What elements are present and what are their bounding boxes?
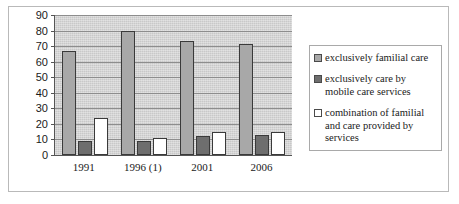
bar	[255, 135, 269, 155]
plot-area	[54, 15, 292, 156]
legend-item: exclusively care by mobile care services	[314, 73, 437, 98]
plot-wrapper: 0102030405060708090 19911996 (1)20012006	[27, 15, 292, 167]
y-axis-tick-label: 50	[36, 72, 48, 83]
chart-figure: 0102030405060708090 19911996 (1)20012006…	[8, 6, 449, 192]
legend-item-label: exclusively familial care	[325, 52, 428, 64]
bar-group	[233, 15, 292, 155]
y-axis-tick-label: 10	[36, 134, 48, 145]
y-axis-tick-label: 40	[36, 87, 48, 98]
y-axis-tick-label: 80	[36, 25, 48, 36]
bar	[153, 138, 167, 155]
legend-item: exclusively familial care	[314, 52, 437, 64]
bar	[62, 51, 76, 155]
y-axis-tick-label: 0	[42, 150, 48, 161]
x-axis-tick-label: 1991	[73, 161, 95, 173]
legend-swatch-exclusively-familial-care	[314, 54, 322, 62]
bar	[121, 31, 135, 155]
bar	[94, 118, 108, 155]
legend-item: combination of familial and care provide…	[314, 107, 437, 144]
bar	[180, 41, 194, 155]
bar	[137, 141, 151, 155]
x-axis: 19911996 (1)20012006	[54, 161, 292, 177]
bar	[212, 132, 226, 155]
y-axis-tick-label: 90	[36, 10, 48, 21]
bar	[196, 136, 210, 155]
bar	[271, 132, 285, 155]
y-axis-tick-label: 30	[36, 103, 48, 114]
x-axis-tick-label: 1996 (1)	[124, 161, 162, 173]
bar-group	[174, 15, 233, 155]
y-axis-tick-label: 60	[36, 56, 48, 67]
y-axis: 0102030405060708090	[27, 15, 51, 155]
bar	[239, 44, 253, 155]
x-axis-tick-label: 2006	[250, 161, 272, 173]
x-axis-tick-label: 2001	[191, 161, 213, 173]
legend-item-label: combination of familial and care provide…	[325, 107, 437, 144]
bar-group	[114, 15, 173, 155]
chart-legend: exclusively familial careexclusively car…	[309, 45, 442, 151]
bar	[78, 141, 92, 155]
y-axis-tick-mark	[51, 155, 55, 156]
legend-swatch-combination	[314, 109, 322, 117]
legend-swatch-exclusively-mobile-care	[314, 75, 322, 83]
y-axis-tick-label: 70	[36, 41, 48, 52]
bar-group	[55, 15, 114, 155]
legend-item-label: exclusively care by mobile care services	[325, 73, 437, 98]
y-axis-tick-label: 20	[36, 118, 48, 129]
